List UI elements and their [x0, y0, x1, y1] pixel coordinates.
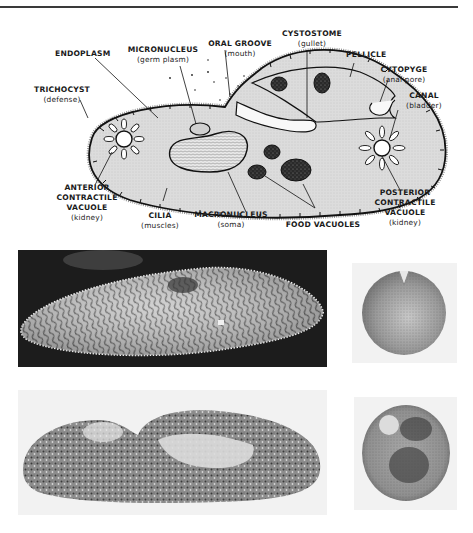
- photo-section-longitudinal: [18, 390, 327, 515]
- anterior-contractile-vacuole: [104, 119, 144, 159]
- label-macronucleus: MACRONUCLEUS: [194, 210, 267, 219]
- photo-cross-section-2: [354, 397, 457, 510]
- food-vacuole: [314, 73, 330, 93]
- label-posterior-cv-note: (kidney): [389, 218, 421, 227]
- label-cytopyge: CYTOPYGE: [381, 65, 428, 74]
- label-micronucleus: MICRONUCLEUS: [128, 45, 198, 54]
- label-anterior-cv-1: ANTERIOR: [64, 183, 109, 192]
- label-cytopyge-note: (anal pore): [383, 75, 426, 84]
- label-trichocyst: TRICHOCYST: [34, 85, 91, 94]
- food-vacuole: [271, 77, 287, 91]
- photo-cross-section-1: [352, 263, 457, 363]
- label-pellicle: PELLICLE: [346, 50, 386, 59]
- label-posterior-cv-1: POSTERIOR: [380, 188, 431, 197]
- posterior-contractile-vacuole: [359, 126, 405, 170]
- label-oral-groove-note: (mouth): [224, 49, 255, 58]
- label-cilia-note: (muscles): [141, 221, 179, 230]
- label-posterior-cv-2: CONTRACTILE: [374, 198, 435, 207]
- label-cystostome-note: (gullet): [298, 39, 326, 48]
- photo-sem-longitudinal: [18, 250, 327, 367]
- label-anterior-cv-note: (kidney): [71, 213, 103, 222]
- label-endoplasm: ENDOPLASM: [55, 49, 110, 58]
- food-vacuole: [264, 145, 280, 159]
- label-food-vacuoles: FOOD VACUOLES: [286, 220, 361, 229]
- label-macronucleus-note: (soma): [217, 220, 244, 229]
- label-posterior-cv-3: VACUOLE: [385, 208, 426, 217]
- food-vacuole: [281, 159, 311, 181]
- label-micronucleus-note: (germ plasm): [137, 55, 189, 64]
- label-oral-groove: ORAL GROOVE: [208, 39, 272, 48]
- label-cystostome: CYSTOSTOME: [282, 29, 342, 38]
- label-anterior-cv-3: VACUOLE: [67, 203, 108, 212]
- label-trichocyst-note: (defense): [43, 95, 80, 104]
- label-canal-note: (bladder): [406, 101, 442, 110]
- label-canal: CANAL: [409, 91, 439, 100]
- food-vacuole: [248, 165, 266, 179]
- micronucleus-shape: [190, 123, 210, 135]
- paramecium-diagram: ENDOPLASM MICRONUCLEUS (germ plasm) ORAL…: [0, 0, 473, 245]
- label-cilia: CILIA: [149, 211, 172, 220]
- label-anterior-cv-2: CONTRACTILE: [56, 193, 117, 202]
